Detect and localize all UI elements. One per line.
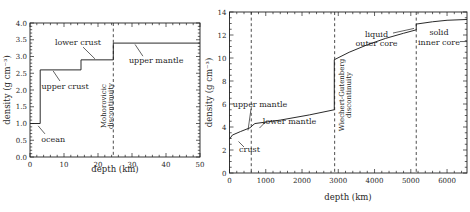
layer-label: lower crust [55,38,102,47]
layer-label: upper crust [41,82,89,91]
y-tick-label: 0.5 [16,137,27,145]
x-tick-label: 2000 [293,177,311,185]
y-tick-label: 14 [218,9,227,17]
layer-label: liquid [365,30,388,39]
annotation-leader-line [83,47,95,59]
y-tick-label: 12 [218,32,227,40]
layer-label: upper mantle [233,100,288,109]
density-depth-figure: 010203040500.00.51.01.52.02.53.03.54.0de… [0,0,470,212]
y-tick-label: 2 [222,147,226,155]
layer-label: upper mantle [129,56,184,65]
earth-interior-density-chart: 010002000300040005000600002468101214dept… [204,9,468,203]
y-tick-label: 0.0 [16,154,27,162]
y-axis-label: density (g cm⁻³) [2,55,12,124]
layer-label: solid [429,28,448,37]
layer-label: outer core [355,39,397,48]
crust-density-chart: 010203040500.00.51.01.52.02.53.03.54.0de… [2,20,204,174]
y-axis-label: density (g cm⁻³) [204,58,214,127]
layer-label: ocean [41,135,65,144]
x-tick-label: 40 [162,161,171,169]
discontinuity-label: discontinuity [107,83,115,129]
annotation-leader-line [38,126,45,134]
annotation-leader-line [53,71,60,81]
annotation-leader-line [135,44,143,56]
layer-label: inner core [418,38,460,47]
y-tick-label: 4.0 [16,20,27,28]
x-tick-label: 5000 [402,177,420,185]
y-tick-label: 0 [222,170,226,178]
annotation-leader-line [393,28,414,33]
x-tick-label: 6000 [438,177,456,185]
x-tick-label: 3000 [329,177,347,185]
y-tick-label: 4 [222,124,227,132]
discontinuity-label: discontinuity [345,72,353,118]
y-tick-label: 8 [222,78,226,86]
y-tick-label: 3.0 [16,53,27,61]
y-tick-label: 3.5 [16,36,27,44]
y-tick-label: 6 [222,101,227,109]
density-depth-charts-svg: 010203040500.00.51.01.52.02.53.03.54.0de… [0,0,470,212]
y-tick-label: 10 [218,55,227,63]
x-tick-label: 4000 [366,177,384,185]
y-tick-label: 1.0 [16,120,27,128]
layer-label: crust [239,145,261,154]
y-tick-label: 1.5 [16,103,27,111]
x-tick-label: 10 [60,161,69,169]
x-tick-label: 1000 [257,177,275,185]
x-tick-label: 0 [28,161,32,169]
y-tick-label: 2.0 [16,87,27,95]
x-tick-label: 50 [196,161,205,169]
x-axis-label: depth (km) [324,192,371,202]
y-tick-label: 2.5 [16,70,27,78]
x-tick-label: 0 [227,177,231,185]
x-axis-label: depth (km) [91,164,138,174]
layer-label: lower mantle [263,117,317,126]
